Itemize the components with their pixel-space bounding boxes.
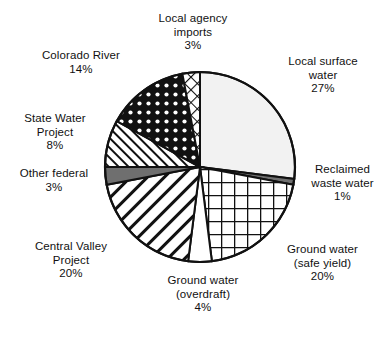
label-other-federal: Other federal 3% [0, 167, 108, 194]
label-local-agency-imports-percent: 3% [138, 39, 248, 53]
label-reclaimed-waste-water-line2: waste water [311, 177, 373, 189]
label-ground-water-overdraft-line1: Ground water [168, 274, 239, 286]
label-colorado-river-line1: Colorado River [42, 49, 120, 61]
label-central-valley-project-percent: 20% [9, 267, 133, 281]
label-ground-water-safe-yield-percent: 20% [265, 270, 380, 284]
label-colorado-river-percent: 14% [17, 63, 145, 77]
label-state-water-project: State Water Project 8% [3, 112, 107, 153]
label-central-valley-project-line2: Project [53, 254, 90, 266]
label-reclaimed-waste-water: Reclaimed waste water 1% [297, 163, 388, 204]
label-state-water-project-line1: State Water [24, 112, 85, 124]
label-local-agency-imports: Local agency imports 3% [138, 12, 248, 53]
label-ground-water-safe-yield: Ground water (safe yield) 20% [265, 243, 380, 284]
label-state-water-project-percent: 8% [3, 139, 107, 153]
pie-chart: Local agency imports 3% Local surface wa… [0, 0, 388, 338]
label-local-agency-imports-line1: Local agency [159, 12, 228, 24]
label-central-valley-project: Central Valley Project 20% [9, 240, 133, 281]
label-other-federal-percent: 3% [0, 181, 108, 195]
label-reclaimed-waste-water-percent: 1% [297, 190, 388, 204]
label-reclaimed-waste-water-line1: Reclaimed [315, 163, 370, 175]
label-ground-water-safe-yield-line2: (safe yield) [294, 257, 351, 269]
label-ground-water-overdraft-percent: 4% [148, 301, 258, 315]
label-local-surface-water-line2: water [309, 69, 338, 81]
label-ground-water-safe-yield-line1: Ground water [287, 243, 358, 255]
label-local-surface-water: Local surface water 27% [268, 55, 378, 96]
label-local-surface-water-percent: 27% [268, 82, 378, 96]
label-local-agency-imports-line2: imports [174, 26, 212, 38]
label-other-federal-line1: Other federal [20, 167, 88, 179]
pie-slices [105, 72, 295, 262]
label-state-water-project-line2: Project [37, 126, 74, 138]
label-ground-water-overdraft: Ground water (overdraft) 4% [148, 274, 258, 315]
label-central-valley-project-line1: Central Valley [35, 240, 107, 252]
label-ground-water-overdraft-line2: (overdraft) [176, 288, 230, 300]
label-colorado-river: Colorado River 14% [17, 49, 145, 76]
label-local-surface-water-line1: Local surface [288, 55, 358, 67]
